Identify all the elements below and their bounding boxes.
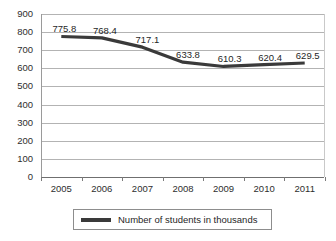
chart-legend: Number of students in thousands — [73, 209, 272, 230]
line-chart: 9008007006005004003002001000 775.8768.47… — [0, 0, 336, 241]
x-tick — [284, 177, 285, 181]
x-axis-ticks — [41, 177, 325, 182]
x-tick-label-2008: 2008 — [172, 183, 193, 194]
y-tick-label-0: 0 — [28, 172, 33, 182]
data-label-2009: 610.3 — [218, 53, 242, 64]
x-tick-label-2007: 2007 — [132, 183, 153, 194]
legend-line-swatch — [81, 218, 111, 222]
data-label-2011: 629.5 — [296, 50, 320, 61]
y-tick-label-700: 700 — [17, 45, 33, 55]
y-axis-labels: 9008007006005004003002001000 — [0, 0, 37, 241]
x-tick — [203, 177, 204, 181]
data-label-2005: 775.8 — [52, 23, 76, 34]
data-label-2006: 768.4 — [93, 25, 117, 36]
x-tick — [244, 177, 245, 181]
data-label-2008: 633.8 — [176, 49, 200, 60]
y-tick-label-300: 300 — [17, 118, 33, 128]
legend-label: Number of students in thousands — [118, 214, 257, 225]
series-line-number-of-students — [41, 14, 325, 177]
data-label-2010: 620.4 — [258, 52, 282, 63]
x-tick-label-2011: 2011 — [294, 183, 314, 194]
y-tick-label-400: 400 — [17, 100, 33, 110]
x-tick-label-2005: 2005 — [51, 183, 72, 194]
y-tick-label-500: 500 — [17, 81, 33, 91]
x-axis-labels: 2005200620072008200920102011 — [41, 183, 325, 197]
x-tick — [82, 177, 83, 181]
data-label-2007: 717.1 — [136, 34, 160, 45]
y-tick-label-200: 200 — [17, 136, 33, 146]
y-tick-label-100: 100 — [17, 154, 33, 164]
y-tick-label-600: 600 — [17, 63, 33, 73]
y-tick-label-900: 900 — [17, 9, 33, 19]
x-tick-label-2009: 2009 — [213, 183, 234, 194]
x-tick-label-2010: 2010 — [254, 183, 275, 194]
x-tick — [41, 177, 42, 181]
y-tick-label-800: 800 — [17, 27, 33, 37]
x-tick — [325, 177, 326, 181]
x-tick — [163, 177, 164, 181]
x-tick-label-2006: 2006 — [91, 183, 112, 194]
x-tick — [122, 177, 123, 181]
